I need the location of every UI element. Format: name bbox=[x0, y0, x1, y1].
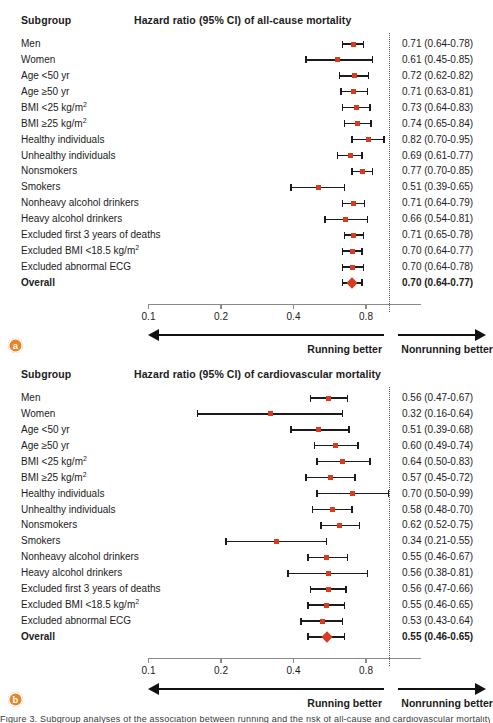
hazard-ratio-value: 0.71 (0.65-0.78) bbox=[402, 227, 473, 243]
subgroup-label: Excluded BMI <18.5 kg/m2 bbox=[21, 597, 139, 613]
x-axis-tick-label: 0.2 bbox=[201, 665, 241, 676]
subgroup-label: Excluded first 3 years of deaths bbox=[21, 581, 161, 597]
table-row: Men0.71 (0.64-0.78) bbox=[0, 36, 490, 52]
hazard-ratio-value: 0.66 (0.54-0.81) bbox=[402, 211, 473, 227]
x-axis-tick-label: 0.4 bbox=[274, 665, 314, 676]
x-axis-tick-label: 0.1 bbox=[129, 665, 169, 676]
hazard-ratio-value: 0.61 (0.45-0.85) bbox=[402, 52, 473, 68]
table-row: Age <50 yr0.51 (0.39-0.68) bbox=[0, 422, 490, 438]
table-row: BMI <25 kg/m20.64 (0.50-0.83) bbox=[0, 454, 490, 470]
hazard-ratio-value: 0.77 (0.70-0.85) bbox=[402, 163, 473, 179]
table-row: Excluded abnormal ECG0.53 (0.43-0.64) bbox=[0, 613, 490, 629]
hazard-ratio-value: 0.57 (0.45-0.72) bbox=[402, 470, 473, 486]
table-row: Nonheavy alcohol drinkers0.55 (0.46-0.67… bbox=[0, 549, 490, 565]
table-row: BMI <25 kg/m20.73 (0.64-0.83) bbox=[0, 100, 490, 116]
subgroup-label: Nonsmokers bbox=[21, 517, 77, 533]
hazard-ratio-value: 0.32 (0.16-0.64) bbox=[402, 406, 473, 422]
subgroup-label: Heavy alcohol drinkers bbox=[21, 211, 122, 227]
x-axis-tick-label: 0.4 bbox=[274, 311, 314, 322]
subgroup-label: Healthy individuals bbox=[21, 486, 104, 502]
panel-b-badge: b bbox=[8, 692, 23, 707]
table-row: Smokers0.51 (0.39-0.65) bbox=[0, 179, 490, 195]
subgroup-label: Excluded abnormal ECG bbox=[21, 259, 131, 275]
hazard-ratio-value: 0.70 (0.50-0.99) bbox=[402, 486, 473, 502]
hazard-ratio-value: 0.70 (0.64-0.77) bbox=[402, 275, 473, 291]
subgroup-label: Healthy individuals bbox=[21, 132, 104, 148]
subgroup-label: Age ≥50 yr bbox=[21, 438, 69, 454]
hazard-ratio-value: 0.82 (0.70-0.95) bbox=[402, 132, 473, 148]
subgroup-label: Excluded abnormal ECG bbox=[21, 613, 131, 629]
subgroup-label: BMI ≥25 kg/m2 bbox=[21, 470, 87, 486]
hazard-ratio-value: 0.55 (0.46-0.65) bbox=[402, 629, 473, 645]
x-axis-line bbox=[148, 304, 422, 305]
hazard-ratio-value: 0.73 (0.64-0.83) bbox=[402, 100, 473, 116]
table-row: Age <50 yr0.72 (0.62-0.82) bbox=[0, 68, 490, 84]
x-axis-tick bbox=[365, 658, 366, 663]
nonrunning-better-label: Nonrunning better bbox=[401, 343, 493, 355]
hazard-ratio-value: 0.51 (0.39-0.65) bbox=[402, 179, 473, 195]
table-row: Heavy alcohol drinkers0.66 (0.54-0.81) bbox=[0, 211, 490, 227]
figure-caption: Figure 3. Subgroup analyses of the assoc… bbox=[0, 716, 490, 723]
hazard-ratio-value: 0.72 (0.62-0.82) bbox=[402, 68, 473, 84]
x-axis-tick bbox=[293, 658, 294, 663]
table-row: BMI ≥25 kg/m20.74 (0.65-0.84) bbox=[0, 116, 490, 132]
x-axis-tick-label: 0.1 bbox=[129, 311, 169, 322]
table-row: Smokers0.34 (0.21-0.55) bbox=[0, 533, 490, 549]
subgroup-label: Unhealthy individuals bbox=[21, 502, 116, 518]
hazard-ratio-value: 0.56 (0.38-0.81) bbox=[402, 565, 473, 581]
hazard-ratio-value: 0.71 (0.63-0.81) bbox=[402, 84, 473, 100]
running-better-arrow-line bbox=[157, 688, 384, 690]
table-row: Men0.56 (0.47-0.67) bbox=[0, 390, 490, 406]
x-axis-tick bbox=[148, 304, 149, 309]
table-row: Women0.32 (0.16-0.64) bbox=[0, 406, 490, 422]
table-row: Excluded BMI <18.5 kg/m20.70 (0.64-0.77) bbox=[0, 243, 490, 259]
table-row: Excluded first 3 years of deaths0.56 (0.… bbox=[0, 581, 490, 597]
table-row: Women0.61 (0.45-0.85) bbox=[0, 52, 490, 68]
table-row: Overall0.70 (0.64-0.77) bbox=[0, 275, 490, 291]
subgroup-label: Unhealthy individuals bbox=[21, 148, 116, 164]
table-row: Overall0.55 (0.46-0.65) bbox=[0, 629, 490, 645]
hazard-ratio-value: 0.70 (0.64-0.77) bbox=[402, 243, 473, 259]
subgroup-label: Men bbox=[21, 36, 40, 52]
running-better-arrow-line bbox=[157, 334, 384, 336]
running-better-label: Running better bbox=[307, 343, 382, 355]
table-row: Excluded abnormal ECG0.70 (0.64-0.78) bbox=[0, 259, 490, 275]
subgroup-label: BMI ≥25 kg/m2 bbox=[21, 116, 87, 132]
figure-caption-text: Figure 3. Subgroup analyses of the assoc… bbox=[0, 716, 490, 723]
table-row: Nonsmokers0.77 (0.70-0.85) bbox=[0, 163, 490, 179]
table-row: Excluded first 3 years of deaths0.71 (0.… bbox=[0, 227, 490, 243]
hazard-ratio-value: 0.69 (0.61-0.77) bbox=[402, 148, 473, 164]
x-axis-tick-label: 0.8 bbox=[346, 311, 386, 322]
subgroup-label: Smokers bbox=[21, 533, 60, 549]
x-axis-tick-label: 0.2 bbox=[201, 311, 241, 322]
subgroup-label: Women bbox=[21, 406, 55, 422]
table-row: Healthy individuals0.70 (0.50-0.99) bbox=[0, 486, 490, 502]
x-axis-tick-label: 0.8 bbox=[346, 665, 386, 676]
subgroup-label: Excluded BMI <18.5 kg/m2 bbox=[21, 243, 139, 259]
hazard-ratio-value: 0.53 (0.43-0.64) bbox=[402, 613, 473, 629]
panel-a-badge: a bbox=[8, 338, 23, 353]
table-row: BMI ≥25 kg/m20.57 (0.45-0.72) bbox=[0, 470, 490, 486]
table-row: Nonsmokers0.62 (0.52-0.75) bbox=[0, 517, 490, 533]
nonrunning-better-arrow-line bbox=[398, 334, 477, 336]
subgroup-label: Age ≥50 yr bbox=[21, 84, 69, 100]
nonrunning-better-arrow-line bbox=[398, 688, 477, 690]
subgroup-label: Nonsmokers bbox=[21, 163, 77, 179]
table-row: Unhealthy individuals0.69 (0.61-0.77) bbox=[0, 148, 490, 164]
hazard-ratio-value: 0.56 (0.47-0.66) bbox=[402, 581, 473, 597]
x-axis-tick bbox=[293, 304, 294, 309]
running-better-arrow-head bbox=[148, 329, 159, 341]
hazard-ratio-value: 0.55 (0.46-0.67) bbox=[402, 549, 473, 565]
running-better-label: Running better bbox=[307, 697, 382, 709]
x-axis-tick bbox=[365, 304, 366, 309]
hazard-ratio-value: 0.34 (0.21-0.55) bbox=[402, 533, 473, 549]
nonrunning-better-arrow-head bbox=[475, 329, 486, 341]
hazard-ratio-value: 0.71 (0.64-0.79) bbox=[402, 195, 473, 211]
hazard-ratio-value: 0.71 (0.64-0.78) bbox=[402, 36, 473, 52]
panel-a-direction-arrows: Running betterNonrunning better bbox=[0, 326, 490, 348]
hazard-ratio-value: 0.70 (0.64-0.78) bbox=[402, 259, 473, 275]
running-better-arrow-head bbox=[148, 683, 159, 695]
subgroup-label: Age <50 yr bbox=[21, 422, 70, 438]
table-row: Excluded BMI <18.5 kg/m20.55 (0.46-0.65) bbox=[0, 597, 490, 613]
subgroup-label: Age <50 yr bbox=[21, 68, 70, 84]
